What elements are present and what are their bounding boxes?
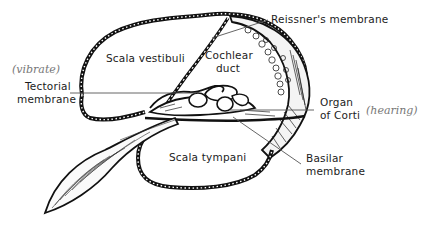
annotation-vibrate: (vibrate) bbox=[12, 63, 60, 76]
label-basilar-membrane-2: membrane bbox=[306, 165, 365, 178]
label-tectorial-membrane-2: membrane bbox=[17, 93, 76, 106]
cochlear-nerve bbox=[45, 118, 178, 213]
spiral-ligament bbox=[230, 16, 310, 158]
label-organ-of-corti-1: Organ bbox=[320, 96, 353, 109]
label-cochlear-duct-2: duct bbox=[216, 62, 240, 75]
label-reissners-membrane: Reissner's membrane bbox=[271, 13, 389, 26]
label-cochlear-duct-1: Cochlear bbox=[205, 49, 253, 62]
annotation-hearing: (hearing) bbox=[366, 104, 418, 117]
label-organ-of-corti-2: of Corti bbox=[320, 109, 360, 122]
label-scala-tympani: Scala tympani bbox=[169, 151, 246, 164]
label-scala-vestibuli: Scala vestibuli bbox=[106, 52, 185, 65]
label-basilar-membrane-1: Basilar bbox=[306, 152, 343, 165]
label-tectorial-membrane-1: Tectorial bbox=[25, 80, 71, 93]
